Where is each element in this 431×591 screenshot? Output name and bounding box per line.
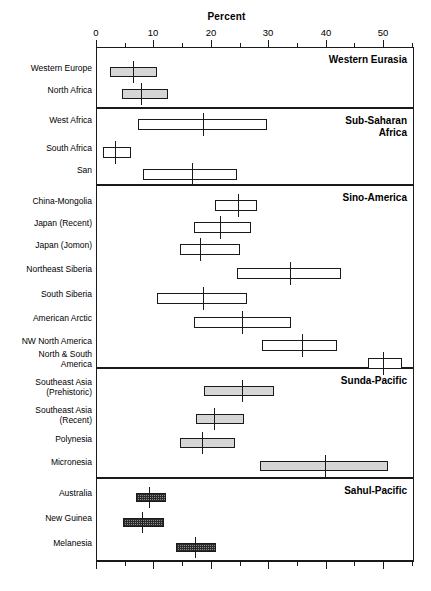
median-marker (383, 352, 384, 375)
row-label-line: Japan (Recent) (0, 218, 92, 228)
median-marker (115, 141, 116, 164)
x-tick-label: 40 (306, 27, 346, 38)
x-tick-minor (354, 562, 355, 566)
row-label: China-Mongolia (0, 196, 92, 206)
x-tick-major (268, 40, 269, 47)
row-label-line: Northeast Siberia (0, 264, 92, 274)
median-marker (325, 455, 326, 477)
row-label-line: New Guinea (0, 513, 92, 523)
x-tick-label: 10 (133, 27, 173, 38)
x-tick-major (153, 562, 154, 569)
x-tick-minor (297, 562, 298, 566)
row-label: American Arctic (0, 313, 92, 323)
axis-line (96, 561, 414, 562)
row-label-line: Micronesia (0, 457, 92, 467)
box-range (180, 244, 240, 255)
row-label-line: Southeast Asia (0, 405, 92, 415)
panel-title: Sahul-Pacific (344, 485, 407, 497)
row-label-line: North & South (0, 349, 92, 359)
panel-title-line: Sahul-Pacific (344, 485, 407, 497)
row-label: NW North America (0, 336, 92, 346)
x-tick-major (211, 562, 212, 569)
panel-title-line: Sub-Saharan (345, 115, 407, 127)
box-range (103, 147, 131, 158)
x-tick-major (326, 562, 327, 569)
row-label-line: NW North America (0, 336, 92, 346)
box-range (143, 169, 237, 180)
box-range (180, 438, 235, 448)
x-tick-label: 30 (248, 27, 288, 38)
median-marker (149, 487, 150, 508)
x-tick-major (326, 40, 327, 47)
row-label: South Siberia (0, 289, 92, 299)
row-label: Southeast Asia(Recent) (0, 405, 92, 425)
box-range (215, 200, 257, 211)
row-label: Polynesia (0, 434, 92, 444)
row-label-line: South Siberia (0, 289, 92, 299)
median-marker (302, 334, 303, 357)
x-tick-minor (412, 562, 413, 566)
median-marker (133, 61, 134, 83)
row-label-line: Western Europe (0, 63, 92, 73)
row-label: North Africa (0, 85, 92, 95)
box-plot-chart: Percent 01020304050 Western EurasiaSub-S… (0, 0, 431, 591)
panel-title-line: Western Eurasia (329, 54, 407, 66)
box-range (262, 340, 337, 351)
median-marker (290, 262, 291, 285)
box-range (368, 358, 402, 369)
row-label: West Africa (0, 115, 92, 125)
row-label: Melanesia (0, 538, 92, 548)
box-range (123, 518, 164, 527)
x-tick-major (96, 562, 97, 569)
row-label: South Africa (0, 143, 92, 153)
row-label-line: South Africa (0, 143, 92, 153)
x-tick-minor (240, 562, 241, 566)
row-label-line: Southeast Asia (0, 377, 92, 387)
median-marker (200, 238, 201, 261)
row-label: San (0, 165, 92, 175)
box-range (260, 461, 388, 471)
median-marker (203, 287, 204, 310)
median-marker (195, 537, 196, 558)
row-label: New Guinea (0, 513, 92, 523)
median-marker (142, 512, 143, 533)
row-label-line: Melanesia (0, 538, 92, 548)
median-marker (214, 408, 215, 430)
row-label: Southeast Asia(Prehistoric) (0, 377, 92, 397)
row-label: Micronesia (0, 457, 92, 467)
median-marker (192, 163, 193, 186)
row-label-line: West Africa (0, 115, 92, 125)
median-marker (202, 432, 203, 454)
median-marker (203, 113, 204, 136)
row-label: Japan (Jomon) (0, 240, 92, 250)
x-tick-major (211, 40, 212, 47)
row-label-line: (Prehistoric) (0, 387, 92, 397)
row-label: Australia (0, 488, 92, 498)
row-label-line: American Arctic (0, 313, 92, 323)
box-range (196, 414, 244, 424)
median-marker (141, 83, 142, 105)
box-range (204, 386, 274, 396)
row-label-line: Japan (Jomon) (0, 240, 92, 250)
box-range (194, 222, 251, 233)
row-label: Japan (Recent) (0, 218, 92, 228)
panel-title-line: Africa (345, 127, 407, 139)
panel-title: Sino-America (343, 192, 407, 204)
x-tick-major (153, 40, 154, 47)
row-label-line: (Recent) (0, 415, 92, 425)
box-range (157, 293, 247, 304)
x-tick-label: 0 (76, 27, 116, 38)
median-marker (238, 194, 239, 217)
box-range (136, 493, 166, 502)
x-tick-major (96, 40, 97, 47)
x-tick-major (383, 40, 384, 47)
panel-title: Western Eurasia (329, 54, 407, 66)
panel-title: Sub-SaharanAfrica (345, 115, 407, 139)
panel-title-line: Sunda-Pacific (341, 375, 407, 387)
box-range (176, 543, 216, 552)
box-range (122, 89, 168, 99)
x-tick-label: 20 (191, 27, 231, 38)
row-label-line: Polynesia (0, 434, 92, 444)
row-label-line: America (0, 359, 92, 369)
row-label-line: North Africa (0, 85, 92, 95)
